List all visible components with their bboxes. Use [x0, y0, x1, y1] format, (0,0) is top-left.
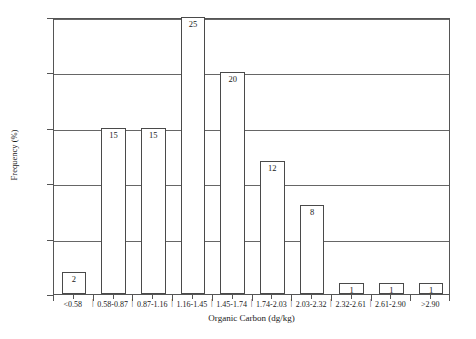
bar: 8 — [300, 205, 325, 294]
bar-value-label: 1 — [380, 285, 403, 295]
bar: 25 — [181, 17, 206, 294]
bar-value-label: 8 — [301, 207, 324, 217]
histogram-figure: Frequency (%) 0510152025 215152520128111… — [0, 0, 476, 339]
x-label-separator: | — [92, 298, 94, 307]
x-tick-label: 2.32-2.61 — [335, 299, 366, 310]
x-tick-label: 1.45-1.74 — [216, 299, 247, 310]
x-tick-label: 0.58-0.87 — [97, 299, 128, 310]
bar: 1 — [339, 283, 364, 294]
bar-value-label: 2 — [63, 274, 86, 284]
x-tick-label: 2.61-2.90 — [375, 299, 406, 310]
x-tick-label: 2.03-2.32 — [296, 299, 327, 310]
bar-value-label: 25 — [182, 19, 205, 29]
x-tick-label: <0.58 — [64, 299, 83, 310]
bar: 1 — [419, 283, 444, 294]
x-label-separator: | — [132, 298, 134, 307]
x-tick-label: 1.74-2.03 — [256, 299, 287, 310]
y-axis: 0510152025 — [0, 0, 53, 300]
bar-value-label: 12 — [261, 163, 284, 173]
x-label-separator: | — [171, 298, 173, 307]
bar: 15 — [101, 128, 126, 294]
x-label-separator: | — [290, 298, 292, 307]
bar-value-label: 15 — [102, 130, 125, 140]
x-axis-labels: <0.580.58-0.87|0.87-1.16|1.16-1.45|1.45-… — [53, 299, 450, 313]
x-tick-label: >2.90 — [421, 299, 440, 310]
bar-series: 215152520128111 — [54, 19, 449, 294]
plot-area: 215152520128111 — [53, 18, 450, 295]
bar-value-label: 1 — [420, 285, 443, 295]
x-label-separator: | — [370, 298, 372, 307]
bar: 12 — [260, 161, 285, 294]
bar-value-label: 20 — [221, 74, 244, 84]
bar: 20 — [220, 72, 245, 294]
x-axis-title: Organic Carbon (dg/kg) — [53, 313, 450, 323]
bar-value-label: 1 — [340, 285, 363, 295]
bar: 2 — [62, 272, 87, 294]
bar: 15 — [141, 128, 166, 294]
x-tick-label: 1.16-1.45 — [177, 299, 208, 310]
bar: 1 — [379, 283, 404, 294]
x-label-separator: | — [211, 298, 213, 307]
bar-value-label: 15 — [142, 130, 165, 140]
x-label-separator: | — [251, 298, 253, 307]
x-tick-label: 0.87-1.16 — [137, 299, 168, 310]
x-label-separator: | — [330, 298, 332, 307]
